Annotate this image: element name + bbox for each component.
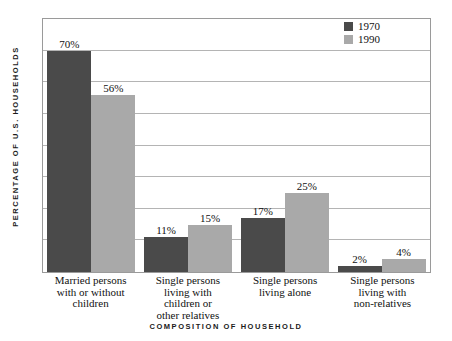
bar-chart-figure: PERCENTAGE OF U.S. HOUSEHOLDS 70%56%11%1… [0,0,452,341]
y-axis-title: PERCENTAGE OF U.S. HOUSEHOLDS [0,0,30,272]
bar-group: 2%4% [333,19,430,272]
legend-swatch-icon [344,35,353,44]
category-label-line: Single persons [141,275,234,287]
category-label-line: other relatives [141,310,234,322]
bar-value-label: 11% [156,224,176,236]
legend-item-1990[interactable]: 1990 [344,34,380,45]
bars-layer: 70%56%11%15%17%25%2%4% [43,19,430,272]
bar-slot: 17% [241,19,285,272]
category-label-1: Married personswith or withoutchildren [42,275,139,310]
category-label-line: children [44,298,137,310]
bar-1970-1[interactable]: 70% [47,51,91,272]
bar-value-label: 25% [297,180,317,192]
bar-slot: 56% [91,19,135,272]
y-axis-title-text: PERCENTAGE OF U.S. HOUSEHOLDS [11,46,20,227]
plot-area: 70%56%11%15%17%25%2%4% [42,18,431,273]
bar-1970-2[interactable]: 11% [144,237,188,272]
bar-value-label: 56% [103,82,123,94]
legend-swatch-icon [344,22,353,31]
bar-value-label: 2% [352,253,367,265]
bar-slot: 15% [188,19,232,272]
x-axis-title: COMPOSITION OF HOUSEHOLD [0,322,452,331]
bar-slot: 70% [47,19,91,272]
bar-value-label: 15% [200,212,220,224]
x-axis-category-labels: Married personswith or withoutchildrenSi… [42,275,431,321]
bar-group: 70%56% [43,19,140,272]
bar-1990-1[interactable]: 56% [91,95,135,272]
bar-1990-4[interactable]: 4% [382,259,426,272]
bar-value-label: 4% [396,246,411,258]
bar-group: 11%15% [140,19,237,272]
bar-slot: 11% [144,19,188,272]
bar-value-label: 70% [59,38,79,50]
legend-item-1970[interactable]: 1970 [344,21,380,32]
category-label-line: living alone [239,287,332,299]
bar-slot: 2% [338,19,382,272]
category-label-line: Married persons [44,275,137,287]
bar-1970-3[interactable]: 17% [241,218,285,272]
bar-value-label: 17% [253,205,273,217]
legend-label: 1970 [358,21,380,32]
category-label-3: Single personsliving alone [237,275,334,298]
bar-1970-4[interactable]: 2% [338,266,382,272]
category-label-line: Single persons [239,275,332,287]
category-label-line: non-relatives [336,298,429,310]
category-label-line: Single persons [336,275,429,287]
bar-group: 17%25% [237,19,334,272]
chart-legend: 19701990 [344,21,380,45]
bar-slot: 4% [382,19,426,272]
bar-1990-2[interactable]: 15% [188,225,232,272]
category-label-4: Single personsliving withnon-relatives [334,275,431,310]
bar-1990-3[interactable]: 25% [285,193,329,272]
legend-label: 1990 [358,34,380,45]
bar-slot: 25% [285,19,329,272]
category-label-2: Single personsliving withchildren orothe… [139,275,236,321]
